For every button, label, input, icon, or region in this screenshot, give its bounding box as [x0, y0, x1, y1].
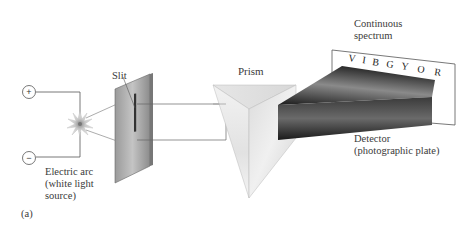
- slit-plate: [115, 73, 153, 183]
- svg-text:+: +: [26, 87, 31, 97]
- circuit-wires: [36, 92, 80, 157]
- spectrum-letter-o: O: [417, 63, 426, 75]
- spectrum-letter-g: G: [386, 58, 395, 70]
- dispersed-beam: [278, 66, 435, 140]
- detector-label-line1: Detector: [354, 133, 390, 145]
- source-label-line1: Electric arc: [45, 166, 93, 178]
- source-label-line3: source): [45, 190, 76, 202]
- spectrum-letter-y: Y: [401, 60, 410, 72]
- spectrum-label-line1: Continuous: [354, 18, 402, 30]
- svg-text:−: −: [26, 153, 31, 163]
- detector-label-line2: (photographic plate): [354, 145, 439, 157]
- positive-terminal-icon: +: [23, 86, 36, 99]
- prism-label: Prism: [238, 65, 264, 77]
- source-label-line2: (white light: [45, 178, 94, 190]
- negative-terminal-icon: −: [23, 152, 36, 165]
- light-rays: [86, 104, 117, 141]
- spectrum-label-line2: spectrum: [354, 30, 393, 42]
- electric-arc-spark-icon: [67, 111, 93, 137]
- slit-label: Slit: [112, 70, 127, 82]
- panel-label: (a): [21, 208, 33, 220]
